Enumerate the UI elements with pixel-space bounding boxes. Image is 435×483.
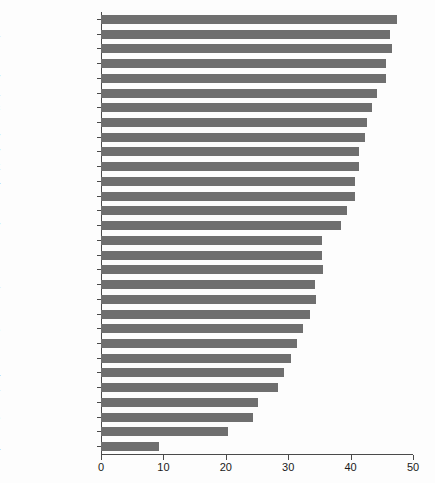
bar — [101, 295, 316, 304]
bar-row: Italy — [101, 218, 435, 233]
bar-row: Japan — [101, 336, 435, 351]
bar — [101, 177, 355, 186]
bar — [101, 89, 377, 98]
bar — [101, 354, 291, 363]
bar — [101, 133, 365, 142]
x-axis-tick — [351, 455, 352, 460]
bar — [101, 206, 347, 215]
x-axis-tick — [226, 455, 227, 460]
bar-row: Israel — [101, 395, 435, 410]
bar — [101, 15, 397, 24]
bar — [101, 44, 392, 53]
bar — [101, 265, 323, 274]
bar-row: Netherlands — [101, 321, 435, 336]
x-axis-tick — [413, 455, 414, 460]
x-axis-tick-label: 40 — [331, 461, 371, 473]
bar-row: Sweden — [101, 204, 435, 219]
bar-row: Austria — [101, 86, 435, 101]
bar-row: New Zealand — [101, 351, 435, 366]
x-axis-tick — [101, 455, 102, 460]
bar — [101, 59, 386, 68]
bar-row: South Korea — [101, 439, 435, 454]
bar-row: Canada — [101, 380, 435, 395]
bar-row: Germany — [101, 130, 435, 145]
bar — [101, 427, 228, 436]
bar-row: Spain — [101, 307, 435, 322]
x-axis-tick-label: 20 — [206, 461, 246, 473]
bar — [101, 221, 341, 230]
bar-row: France — [101, 189, 435, 204]
x-axis-tick-label: 30 — [268, 461, 308, 473]
bar — [101, 30, 390, 39]
bar — [101, 398, 258, 407]
bar — [101, 192, 355, 201]
bar-row: United Kingdom — [101, 262, 435, 277]
bar — [101, 147, 359, 156]
x-axis-tick-label: 10 — [143, 461, 183, 473]
bar-row: Slovenia — [101, 27, 435, 42]
bar-chart: IrelandSloveniaFinlandBelgiumHungaryAust… — [0, 0, 435, 483]
bar — [101, 236, 322, 245]
bar — [101, 368, 284, 377]
x-axis-line — [101, 454, 413, 455]
bar-row: Estonia — [101, 277, 435, 292]
bar — [101, 162, 359, 171]
bar — [101, 442, 159, 451]
bar-row: Czech Republic — [101, 100, 435, 115]
bar-row: Greece — [101, 248, 435, 263]
x-axis-tick-label: 0 — [81, 461, 121, 473]
bar-row: Belgium — [101, 56, 435, 71]
bar — [101, 383, 278, 392]
bar-row: Switzerland — [101, 425, 435, 440]
bar — [101, 413, 253, 422]
bar-row: Ireland — [101, 12, 435, 27]
bar-row: Norway — [101, 145, 435, 160]
bar — [101, 103, 372, 112]
bar-row: Poland — [101, 233, 435, 248]
bar — [101, 74, 386, 83]
bar — [101, 324, 303, 333]
bar-row: Slovakia — [101, 174, 435, 189]
bar — [101, 251, 322, 260]
bar — [101, 118, 367, 127]
bar-row: Finland — [101, 41, 435, 56]
bar-row: Hungary — [101, 71, 435, 86]
bar — [101, 310, 310, 319]
bar — [101, 280, 315, 289]
x-axis-tick-label: 50 — [393, 461, 433, 473]
bar-row: Denmark — [101, 159, 435, 174]
x-axis-tick — [163, 455, 164, 460]
bar-row: Australia — [101, 366, 435, 381]
bar — [101, 339, 297, 348]
bar-row: Portugal — [101, 292, 435, 307]
x-axis-tick — [288, 455, 289, 460]
plot-area: IrelandSloveniaFinlandBelgiumHungaryAust… — [101, 12, 435, 454]
bar-row: Luxembourg — [101, 115, 435, 130]
bar-row: United States — [101, 410, 435, 425]
